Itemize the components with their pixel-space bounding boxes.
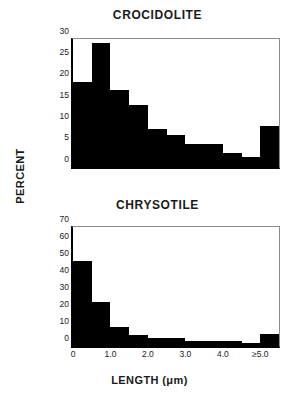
bar [110,90,129,167]
x-tick-label: 2.0 [142,350,154,359]
x-axis-label: LENGTH (μm) [0,374,299,386]
bar [260,126,279,167]
y-tick-label: 10 [60,316,69,325]
y-tick-label: 25 [60,48,69,57]
x-tick-label: 4.0 [217,350,229,359]
x-tick-label: 3.0 [179,350,191,359]
bar [148,129,167,167]
bar [167,135,186,167]
bar [148,338,167,347]
plot-area-crocidolite: 051015202530 [73,39,279,167]
x-tick-label: ≥5.0 [252,350,268,359]
y-tick-label: 40 [60,265,69,274]
bar [185,144,204,167]
y-tick-label: 0 [64,333,69,342]
bar [223,341,242,346]
plot-panel-chrysotile: 01020304050607001.02.03.04.0≥5.0 [71,226,280,348]
y-tick-label: 5 [64,133,69,142]
y-tick-label: 60 [60,231,69,240]
bar [73,261,92,346]
plot-panel-crocidolite: 051015202530 [71,38,280,169]
bar [204,341,223,346]
y-tick-label: 30 [60,26,69,35]
bar [185,341,204,346]
y-tick-label: 20 [60,299,69,308]
plot-area-chrysotile: 01020304050607001.02.03.04.0≥5.0 [73,227,279,346]
y-tick-label: 10 [60,112,69,121]
bar [92,302,111,346]
x-tick-label: 0 [71,350,76,359]
figure: PERCENT CROCIDOLITE 051015202530 CHRYSOT… [0,0,299,405]
bar [242,343,261,346]
bar [223,153,242,167]
bar [242,157,261,167]
panel-title-crocidolite: CROCIDOLITE [8,8,299,22]
y-axis-label: PERCENT [14,116,26,236]
y-tick-label: 50 [60,248,69,257]
panel-title-chrysotile: CHRYSOTILE [8,198,299,212]
y-tick-label: 15 [60,90,69,99]
bar [204,144,223,167]
bar [92,43,111,167]
y-tick-label: 70 [60,214,69,223]
bar [110,327,129,346]
y-tick-label: 20 [60,69,69,78]
y-tick-label: 30 [60,282,69,291]
bar [167,338,186,346]
x-tick-label: 1.0 [105,350,117,359]
y-tick-label: 0 [64,154,69,163]
bar [129,335,148,346]
bar [260,334,279,346]
bar [129,105,148,167]
bar [73,82,92,167]
